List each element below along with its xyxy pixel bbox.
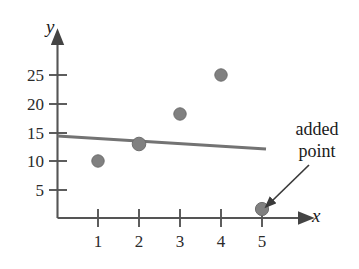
x-tick-label-5: 5 [248, 233, 276, 250]
x-tick-label-2: 2 [125, 233, 153, 250]
added-point-annotation-line2: point [277, 141, 357, 163]
scatter-plot-figure: 25 20 15 10 5 1 2 3 4 5 y x added point [0, 0, 359, 269]
y-tick-label-15: 15 [6, 125, 44, 142]
added-point-annotation-line1: added [277, 119, 357, 141]
y-tick-label-25: 25 [6, 67, 44, 84]
y-axis-label: y [46, 17, 54, 36]
data-point-5-added [255, 202, 268, 215]
y-tick-label-5: 5 [6, 182, 44, 199]
data-point-2 [132, 137, 146, 151]
x-tick-label-1: 1 [84, 233, 112, 250]
data-point-3 [174, 108, 186, 120]
data-point-1 [92, 155, 104, 167]
y-tick-label-20: 20 [6, 96, 44, 113]
added-point-arrow [272, 165, 309, 201]
x-axis-label: x [312, 206, 320, 225]
regression-line [58, 136, 267, 149]
data-point-4 [215, 69, 227, 81]
x-tick-label-3: 3 [166, 233, 194, 250]
x-tick-label-4: 4 [207, 233, 235, 250]
y-tick-label-10: 10 [6, 153, 44, 170]
